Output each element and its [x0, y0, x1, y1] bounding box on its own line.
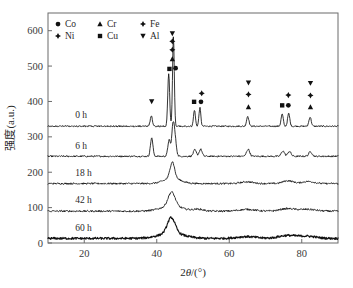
legend-label-Cr: Cr	[107, 19, 117, 29]
x-tick-label-20: 20	[79, 248, 90, 259]
peak-marker-Ni-2	[169, 38, 175, 44]
peak-marker-Co-6	[173, 66, 178, 71]
y-tick-label-100: 100	[27, 202, 43, 213]
legend-marker-Cu	[98, 34, 102, 38]
trace-6h	[48, 122, 338, 157]
peak-marker-Co-9	[199, 99, 204, 104]
legend-marker-Co	[56, 22, 61, 27]
xrd-chart-svg: 2040608001002003004005006002θ/(°)强度(a.u.…	[0, 0, 353, 288]
curve-label-6h: 6 h	[75, 141, 87, 151]
peak-marker-Al-0	[149, 99, 154, 104]
peak-marker-Al-1	[170, 31, 175, 36]
peak-marker-Ni-17	[307, 92, 313, 98]
x-tick-label-60: 60	[224, 248, 235, 259]
peak-marker-Ni-7	[199, 90, 205, 96]
y-tick-label-600: 600	[27, 25, 43, 36]
legend-marker-Ni	[55, 33, 61, 39]
x-tick-label-40: 40	[152, 248, 163, 259]
x-axis-label: 2θ/(°)	[180, 266, 206, 279]
y-tick-label-400: 400	[27, 96, 43, 107]
peak-marker-Cu-5	[167, 67, 171, 71]
y-tick-label-200: 200	[27, 167, 43, 178]
curve-label-60h: 60 h	[75, 223, 92, 233]
legend-label-Co: Co	[65, 19, 76, 29]
x-tick-label-80: 80	[297, 248, 308, 259]
peak-marker-Cr-12	[246, 104, 251, 109]
xrd-figure: 2040608001002003004005006002θ/(°)强度(a.u.…	[0, 0, 353, 288]
legend-marker-Al	[140, 34, 145, 39]
curve-label-42h: 42 h	[75, 195, 92, 205]
legend-label-Fe: Fe	[150, 19, 160, 29]
y-tick-label-500: 500	[27, 61, 43, 72]
y-axis-label: 强度(a.u.)	[3, 105, 17, 151]
peak-marker-Cr-18	[308, 104, 313, 109]
y-tick-label-300: 300	[27, 131, 43, 142]
legend-marker-Cr	[97, 21, 102, 26]
legend-marker-Fe	[140, 21, 146, 27]
trace-0h	[48, 37, 338, 127]
peak-marker-Ni-11	[245, 91, 251, 97]
curve-label-18h: 18 h	[75, 168, 92, 178]
curve-label-0h: 0 h	[75, 110, 87, 120]
y-tick-label-0: 0	[38, 238, 43, 249]
peak-marker-Ni-13	[285, 92, 291, 98]
peak-marker-Al-16	[308, 81, 313, 86]
peak-marker-Cu-14	[280, 103, 284, 107]
peak-marker-Co-15	[286, 103, 291, 108]
peak-marker-Cu-8	[192, 100, 196, 104]
legend-label-Ni: Ni	[65, 31, 75, 41]
legend-label-Cu: Cu	[107, 31, 118, 41]
peak-marker-Fe-3	[169, 47, 175, 53]
legend-label-Al: Al	[150, 31, 160, 41]
peak-marker-Al-10	[246, 81, 251, 86]
